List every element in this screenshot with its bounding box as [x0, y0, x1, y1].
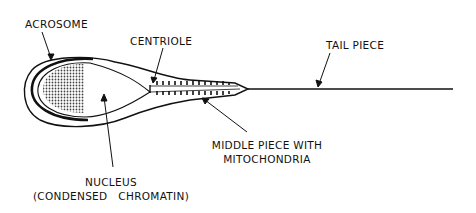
label-nucleus: NUCLEUS (CONDENSED CHROMATIN)	[26, 176, 196, 202]
label-middle-piece: MIDDLE PIECE WITH MITOCHONDRIA	[205, 139, 329, 165]
label-middle-piece-line2: MITOCHONDRIA	[205, 153, 329, 165]
label-nucleus-line2: (CONDENSED CHROMATIN)	[26, 190, 196, 202]
label-tail-piece: TAIL PIECE	[326, 39, 384, 51]
label-middle-piece-line1: MIDDLE PIECE WITH	[205, 139, 329, 151]
label-nucleus-line1: NUCLEUS	[26, 176, 196, 188]
label-acrosome: ACROSOME	[25, 18, 88, 30]
label-centriole: CENTRIOLE	[130, 35, 192, 47]
